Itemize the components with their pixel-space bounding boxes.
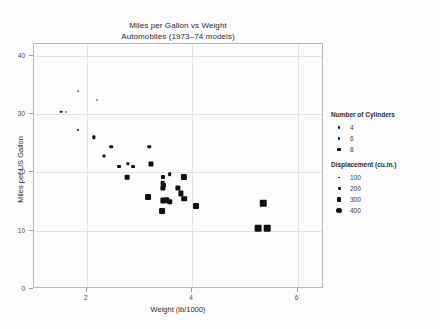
gridline-horizontal	[34, 231, 322, 232]
legend-cylinders-marker-icon	[331, 148, 347, 151]
data-point	[148, 145, 152, 149]
data-point	[193, 203, 199, 209]
data-point	[164, 198, 169, 203]
data-point	[92, 136, 95, 139]
data-point	[77, 129, 79, 131]
chart-title-block: Miles per Gallon vs Weight Automobiles (…	[33, 20, 323, 42]
legend-displacement-marker-icon	[331, 187, 347, 190]
data-point	[65, 111, 67, 113]
data-point	[159, 208, 165, 214]
legend-displacement-row: 100	[331, 172, 396, 183]
legend-displacement-label: 400	[350, 207, 361, 214]
data-point	[96, 99, 98, 101]
x-axis-tick-label: 4	[181, 294, 201, 301]
legend-cylinders-rows: 468	[331, 122, 395, 155]
legend-displacement-swatch	[338, 187, 341, 190]
chart-figure: Miles per Gallon vs Weight Automobiles (…	[0, 0, 440, 329]
x-axis-tick-label: 2	[76, 294, 96, 301]
legend-cylinders-swatch	[337, 148, 340, 151]
y-axis-label: Miles per US Gallon	[16, 110, 25, 230]
legend-cylinders-marker-icon	[331, 126, 347, 128]
y-axis-tick	[29, 171, 33, 172]
legend-cylinders-swatch	[338, 126, 340, 128]
x-axis-tick	[297, 288, 298, 292]
legend-displacement-swatch	[336, 208, 342, 214]
y-axis-tick	[29, 288, 33, 289]
data-point	[109, 145, 113, 149]
y-axis-tick-label: 0	[5, 285, 25, 292]
data-point	[160, 185, 165, 190]
data-point	[260, 200, 267, 207]
legend-cylinders-row: 4	[331, 122, 395, 133]
plot-frame	[33, 43, 323, 288]
data-point	[145, 194, 151, 200]
data-point	[131, 165, 135, 169]
legend-cylinders-swatch	[338, 137, 341, 140]
data-point	[77, 90, 79, 92]
y-axis-tick-label: 40	[5, 51, 25, 58]
legend-cylinders-label: 6	[350, 135, 354, 142]
x-axis-tick-label: 6	[287, 294, 307, 301]
legend-displacement-title: Displacement (cu.in.)	[331, 161, 396, 168]
legend-displacement-label: 100	[350, 174, 361, 181]
gridline-vertical	[87, 44, 88, 287]
chart-subtitle: Automobiles (1973–74 models)	[33, 31, 323, 42]
y-axis-tick	[29, 230, 33, 231]
legend-displacement-row: 200	[331, 183, 396, 194]
legend-displacement-marker-icon	[331, 208, 347, 214]
legend-displacement-swatch	[338, 177, 340, 179]
gridline-vertical	[298, 44, 299, 287]
x-axis-tick	[86, 288, 87, 292]
data-point	[148, 162, 153, 167]
legend-displacement-marker-icon	[331, 177, 347, 179]
data-point	[60, 110, 63, 113]
gridline-vertical	[192, 44, 193, 287]
x-axis-tick	[191, 288, 192, 292]
legend-displacement-label: 300	[350, 196, 361, 203]
legend-cylinders-marker-icon	[331, 137, 347, 140]
plot-area	[34, 44, 322, 287]
legend-displacement-row: 400	[331, 205, 396, 216]
page-title: Miles per Gallon vs Weight	[33, 20, 323, 31]
legend-displacement-swatch	[337, 197, 341, 201]
legend-displacement-row: 300	[331, 194, 396, 205]
legend-cylinders-row: 6	[331, 133, 395, 144]
x-axis-label: Weight (lb/1000)	[33, 305, 323, 314]
data-point	[161, 175, 165, 179]
data-point	[255, 225, 262, 232]
data-point	[168, 172, 172, 176]
data-point	[102, 154, 105, 157]
y-axis-tick	[29, 55, 33, 56]
legend-displacement-marker-icon	[331, 197, 347, 201]
legend-cylinders-row: 8	[331, 144, 395, 155]
legend-cylinders-label: 8	[350, 146, 354, 153]
gridline-horizontal	[34, 114, 322, 115]
y-axis-tick	[29, 113, 33, 114]
legend-displacement: Displacement (cu.in.) 100200300400	[331, 161, 396, 216]
data-point	[117, 165, 121, 169]
data-point	[181, 174, 187, 180]
gridline-horizontal	[34, 56, 322, 57]
data-point	[126, 163, 129, 166]
legend-cylinders-title: Number of Cylinders	[331, 111, 395, 118]
data-point	[125, 175, 130, 180]
legend-displacement-rows: 100200300400	[331, 172, 396, 216]
legend-displacement-label: 200	[350, 185, 361, 192]
data-point	[264, 225, 271, 232]
gridline-horizontal	[34, 172, 322, 173]
legend-cylinders: Number of Cylinders 468	[331, 111, 395, 155]
data-point	[181, 196, 187, 202]
legend-cylinders-label: 4	[350, 124, 354, 131]
